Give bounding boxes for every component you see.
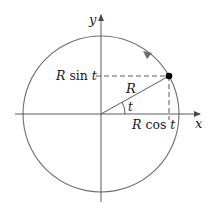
- sin-t: t: [92, 68, 98, 83]
- cos-t: t: [170, 117, 176, 132]
- sin-fn: sin: [69, 68, 87, 83]
- angle-arc: [122, 102, 125, 114]
- x-axis-label: x: [195, 116, 203, 131]
- cos-fn: cos: [145, 117, 166, 132]
- cos-r: R: [131, 117, 141, 132]
- x-projection-label: R cos t: [131, 117, 176, 132]
- angle-label: t: [128, 100, 133, 114]
- radius-label: R: [125, 81, 136, 96]
- unit-circle-diagram: y x R t R sin t R cos t: [0, 0, 217, 205]
- y-axis-label: y: [88, 12, 97, 27]
- direction-arrow-icon: [143, 51, 152, 59]
- sin-r: R: [55, 68, 65, 83]
- y-projection-label: R sin t: [55, 68, 98, 83]
- point-marker: [166, 73, 173, 80]
